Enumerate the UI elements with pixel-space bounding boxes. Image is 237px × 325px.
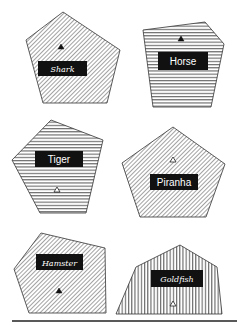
pentagon-shape [122, 127, 225, 217]
shape-label: Goldfish [160, 275, 193, 284]
shapes-diagram: Shark Horse Tiger Piranha Hamster [0, 0, 237, 325]
shape-label: Shark [50, 65, 74, 74]
shape-goldfish: Goldfish [116, 245, 222, 314]
shape-piranha: Piranha [122, 127, 225, 217]
shape-shark: Shark [26, 12, 120, 103]
shape-hamster: Hamster [14, 233, 106, 313]
pentagon-shape [14, 233, 106, 313]
shape-label: Hamster [41, 259, 78, 268]
shape-label: Piranha [157, 177, 192, 188]
shape-label: Horse [170, 56, 197, 67]
shape-label: Tiger [48, 154, 71, 165]
diagram-canvas: Shark Horse Tiger Piranha Hamster [0, 0, 237, 325]
shape-horse: Horse [143, 22, 224, 107]
shape-tiger: Tiger [12, 120, 103, 213]
pentagon-shape [26, 12, 120, 103]
